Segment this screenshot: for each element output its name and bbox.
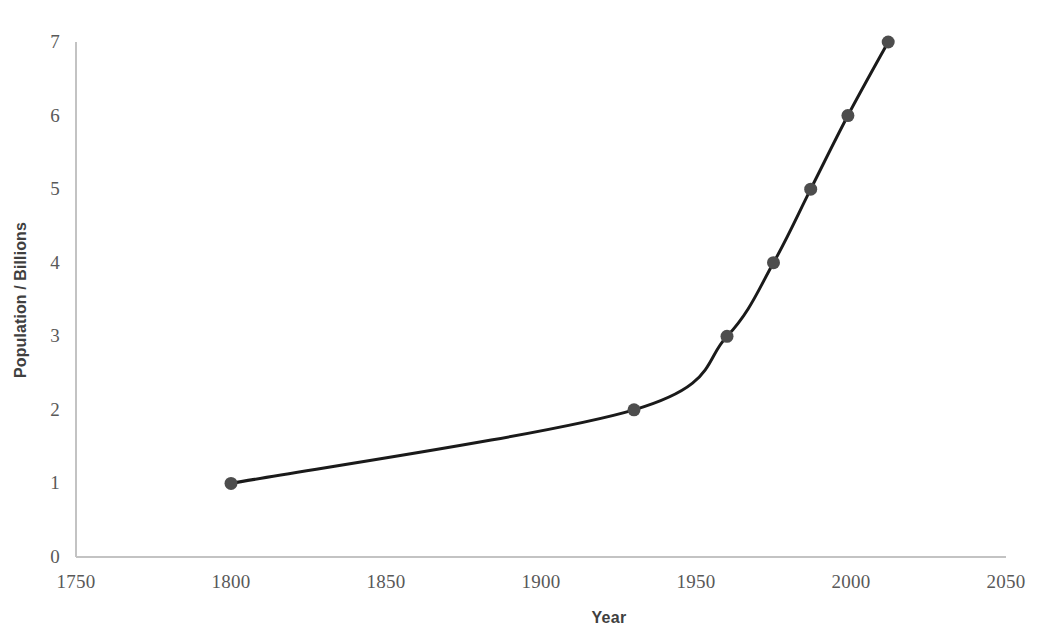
x-tick-label: 2000 — [832, 571, 871, 593]
axis-lines — [76, 42, 1006, 557]
x-tick-label: 1850 — [367, 571, 406, 593]
x-axis-title: Year — [591, 609, 626, 627]
y-tick-label: 6 — [34, 105, 60, 127]
data-point-marker — [225, 477, 238, 490]
x-tick-label: 1750 — [57, 571, 96, 593]
y-tick-label: 3 — [34, 325, 60, 347]
data-point-marker — [882, 36, 895, 49]
data-point-marker — [804, 183, 817, 196]
x-tick-label: 2050 — [987, 571, 1026, 593]
data-point-marker — [767, 256, 780, 269]
y-tick-label: 7 — [34, 31, 60, 53]
y-tick-label: 5 — [34, 178, 60, 200]
x-tick-label: 1800 — [212, 571, 251, 593]
data-point-marker — [628, 403, 641, 416]
series-line — [231, 42, 888, 483]
x-tick-label: 1900 — [522, 571, 561, 593]
data-series-world-population — [225, 36, 895, 490]
y-tick-label: 1 — [34, 472, 60, 494]
series-markers — [225, 36, 895, 490]
data-point-marker — [721, 330, 734, 343]
population-growth-chart: 01234567 1750180018501900195020002050 Po… — [0, 0, 1051, 641]
x-tick-label: 1950 — [677, 571, 716, 593]
y-tick-label: 4 — [34, 252, 60, 274]
data-point-marker — [841, 109, 854, 122]
y-axis-title: Population / Billions — [12, 222, 30, 378]
y-tick-label: 2 — [34, 399, 60, 421]
y-tick-label: 0 — [34, 546, 60, 568]
plot-area — [0, 0, 1051, 641]
